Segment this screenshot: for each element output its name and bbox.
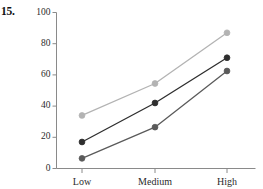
y-axis-tick-label: 0 [25,164,51,174]
axes-group [53,13,256,174]
data-point [224,68,230,74]
data-point [79,139,85,145]
series-group [79,30,230,161]
y-axis-tick-label: 40 [25,101,51,111]
figure-container: 15. 020406080100 LowMediumHigh [0,0,263,189]
data-point [224,55,230,61]
line-chart [0,0,263,189]
y-axis-tick-label: 100 [25,8,51,18]
data-point [79,155,85,161]
x-axis-tick-label: Low [73,177,91,187]
data-point [152,81,158,87]
x-axis-tick-label: Medium [138,177,172,187]
data-point [79,113,85,119]
data-point [152,100,158,106]
data-point [152,124,158,130]
y-axis-tick-label: 80 [25,39,51,49]
y-axis-tick-label: 20 [25,132,51,142]
y-axis-tick-label: 60 [25,70,51,80]
data-point [224,30,230,36]
x-axis-tick-label: High [217,177,237,187]
